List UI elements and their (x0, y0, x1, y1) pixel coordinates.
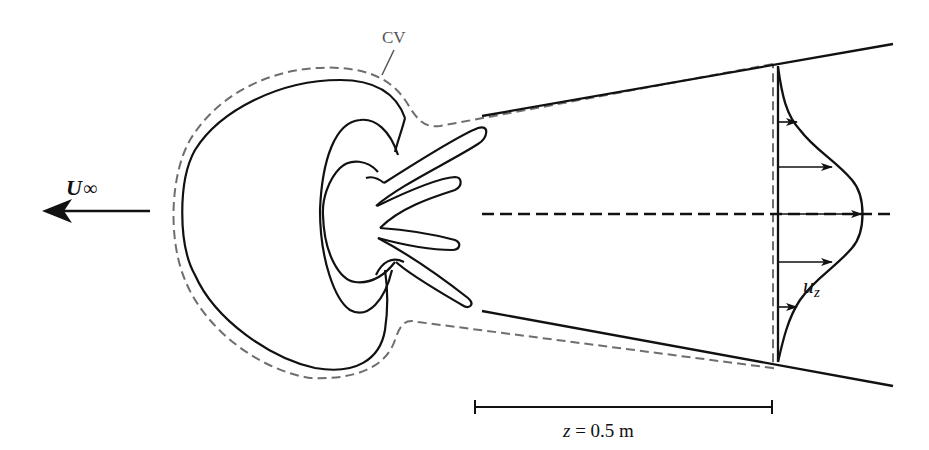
wake-upper-boundary (482, 44, 893, 116)
body-outline-upper-inner (395, 118, 405, 152)
diagram-canvas: U∞ CV uz z = 0.5 m (0, 0, 929, 450)
scale-bar (475, 400, 772, 414)
fin-top (376, 127, 486, 206)
free-stream-arrow-icon (42, 199, 150, 223)
control-volume-boundary (174, 64, 773, 378)
control-volume-label: CV (382, 28, 406, 48)
fin-top-curl (366, 177, 384, 183)
fin-upper-middle (377, 177, 461, 228)
diagram-svg (0, 0, 929, 450)
free-stream-velocity-label: U∞ (66, 175, 97, 201)
fin-lower-middle (378, 228, 459, 250)
velocity-profile-label: uz (803, 273, 820, 299)
scale-bar-label: z = 0.5 m (563, 420, 634, 442)
cv-leader-line (382, 50, 394, 75)
body-outline (182, 80, 405, 370)
wake-lower-boundary (482, 311, 893, 386)
